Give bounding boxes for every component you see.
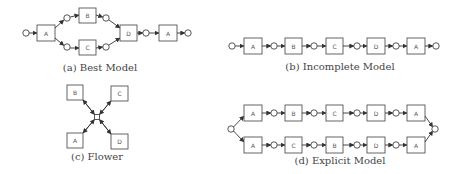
end-place — [432, 126, 438, 132]
best-model-diagram: A B C D A — [23, 8, 191, 55]
center-place — [95, 115, 100, 120]
transition-label: C — [85, 44, 89, 51]
place — [393, 43, 399, 49]
transition-label: B — [85, 12, 89, 19]
transition-label: D — [126, 30, 131, 37]
place — [354, 142, 360, 148]
transition-label: C — [332, 110, 336, 117]
lower-row: A C B D A — [244, 137, 425, 153]
end-place — [433, 43, 439, 49]
place — [271, 43, 277, 49]
place — [103, 44, 109, 50]
transition-label: C — [117, 90, 121, 97]
transition-label: C — [291, 142, 295, 149]
transition-label: B — [73, 89, 77, 96]
transition-label: B — [332, 142, 336, 149]
place — [64, 15, 70, 21]
start-place — [23, 30, 29, 36]
place — [311, 43, 317, 49]
place — [311, 110, 317, 116]
transition-label: C — [332, 43, 336, 50]
place — [271, 142, 277, 148]
transition-label: D — [374, 142, 379, 149]
place — [393, 110, 399, 116]
start-place — [229, 43, 235, 49]
place — [311, 142, 317, 148]
upper-row: A B C D A — [244, 105, 425, 121]
caption-best-model: (a) Best Model — [63, 62, 137, 73]
transition-label: B — [291, 110, 295, 117]
place — [354, 43, 360, 49]
transition-label: D — [374, 43, 379, 50]
transition-label: B — [291, 43, 295, 50]
flower-model-diagram: B C A D — [67, 85, 128, 149]
start-place — [228, 126, 234, 132]
caption-flower: (c) Flower — [71, 151, 123, 162]
caption-explicit-model: (d) Explicit Model — [295, 155, 386, 166]
explicit-model-diagram: A B C D A A — [228, 105, 438, 153]
transition-label: D — [374, 110, 379, 117]
place — [103, 15, 109, 21]
place — [271, 110, 277, 116]
place — [143, 30, 149, 36]
end-place — [185, 30, 191, 36]
incomplete-model-diagram: A B C D A — [229, 38, 439, 54]
place — [354, 110, 360, 116]
place — [64, 44, 70, 50]
caption-incomplete-model: (b) Incomplete Model — [285, 61, 394, 72]
place — [393, 142, 399, 148]
petri-net-figures: A B C D A A B — [0, 0, 458, 174]
transition-label: D — [117, 138, 122, 145]
